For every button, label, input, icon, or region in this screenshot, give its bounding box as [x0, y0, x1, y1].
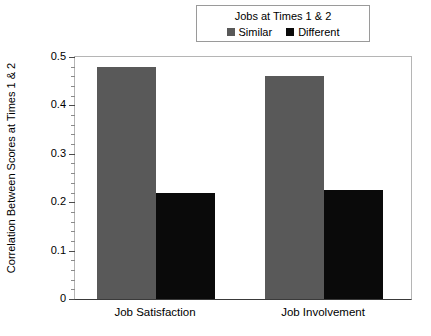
- y-axis-minor-tick: [71, 67, 75, 68]
- y-axis-minor-tick: [71, 144, 75, 145]
- y-axis-major-tick: [69, 251, 75, 252]
- y-axis-minor-tick: [71, 86, 75, 87]
- legend-label-similar: Similar: [239, 26, 273, 38]
- x-axis-tick-labels: Job SatisfactionJob Involvement: [74, 306, 410, 326]
- y-axis-minor-tick: [71, 163, 75, 164]
- y-axis-label: Correlation Between Scores at Times 1 & …: [5, 63, 17, 273]
- y-axis-major-tick: [69, 57, 75, 58]
- legend-entries: Similar Different: [227, 26, 340, 38]
- y-axis-minor-tick: [71, 231, 75, 232]
- y-axis-minor-tick: [71, 280, 75, 281]
- y-axis-tick-label: 0.3: [51, 147, 66, 159]
- y-axis-major-tick: [69, 299, 75, 300]
- y-axis-major-tick: [69, 154, 75, 155]
- bar-chart-figure: Jobs at Times 1 & 2 Similar Different Co…: [0, 0, 431, 336]
- y-axis-major-tick: [69, 202, 75, 203]
- bar-similar-job-satisfaction: [97, 67, 156, 299]
- y-axis-minor-tick: [71, 96, 75, 97]
- y-axis-minor-tick: [71, 134, 75, 135]
- legend-swatch-similar-icon: [227, 28, 235, 36]
- legend-entry-different: Different: [286, 26, 339, 38]
- y-axis-major-tick: [69, 105, 75, 106]
- y-axis-tick-label: 0.2: [51, 195, 66, 207]
- x-axis-tick-label: Job Involvement: [281, 306, 365, 318]
- legend-swatch-different-icon: [286, 28, 294, 36]
- y-axis-minor-tick: [71, 289, 75, 290]
- bar-different-job-satisfaction: [156, 193, 215, 299]
- plot-area: [74, 56, 412, 300]
- bar-different-job-involvement: [324, 190, 383, 299]
- legend-label-different: Different: [298, 26, 339, 38]
- y-axis-tick-labels: 00.10.20.30.40.5: [40, 56, 66, 298]
- legend-entry-similar: Similar: [227, 26, 273, 38]
- y-axis-minor-tick: [71, 115, 75, 116]
- y-axis-label-container: Correlation Between Scores at Times 1 & …: [0, 0, 22, 336]
- y-axis-tick-label: 0.5: [51, 50, 66, 62]
- y-axis-tick-label: 0.1: [51, 244, 66, 256]
- x-axis-tick-label: Job Satisfaction: [114, 306, 195, 318]
- y-axis-tick-label: 0.4: [51, 98, 66, 110]
- y-axis-minor-tick: [71, 193, 75, 194]
- y-axis-minor-tick: [71, 222, 75, 223]
- y-axis-tick-label: 0: [60, 292, 66, 304]
- chart-legend: Jobs at Times 1 & 2 Similar Different: [196, 5, 370, 42]
- bar-similar-job-involvement: [265, 76, 324, 299]
- y-axis-minor-tick: [71, 76, 75, 77]
- y-axis-minor-tick: [71, 270, 75, 271]
- y-axis-minor-tick: [71, 173, 75, 174]
- y-axis-minor-tick: [71, 241, 75, 242]
- legend-title: Jobs at Times 1 & 2: [235, 10, 332, 23]
- y-axis-minor-tick: [71, 125, 75, 126]
- y-axis-minor-tick: [71, 212, 75, 213]
- plot-inner: [75, 57, 411, 299]
- y-axis-minor-tick: [71, 183, 75, 184]
- y-axis-minor-tick: [71, 260, 75, 261]
